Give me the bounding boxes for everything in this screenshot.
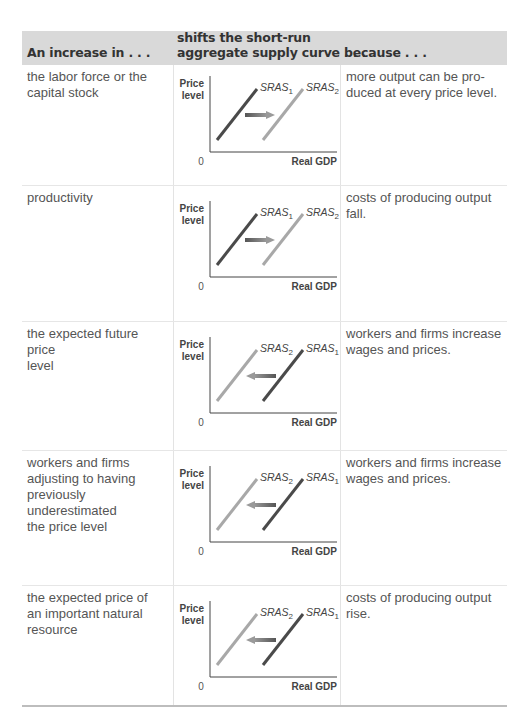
svg-text:Real GDP: Real GDP (291, 281, 337, 292)
svg-text:Price: Price (180, 339, 205, 350)
svg-text:level: level (182, 615, 204, 626)
svg-text:level: level (182, 215, 204, 226)
header-reason: because . . . (344, 45, 427, 60)
table-row: the labor force or thecapital stock Pric… (22, 65, 507, 185)
header-shift-line1: shifts the short-run (177, 30, 366, 45)
svg-text:level: level (182, 480, 204, 491)
sras-shift-chart: Pricelevel0Real GDPSRAS1SRAS2 (174, 69, 340, 184)
svg-text:0: 0 (198, 156, 204, 167)
column-divider (340, 451, 341, 585)
table-body: the labor force or thecapital stock Pric… (22, 65, 507, 707)
table-header: An increase in . . . shifts the short-ru… (22, 31, 507, 65)
svg-text:SRAS2: SRAS2 (260, 471, 294, 486)
svg-text:0: 0 (198, 681, 204, 692)
cause-cell: the labor force or thecapital stock (27, 69, 169, 101)
svg-text:level: level (182, 90, 204, 101)
svg-text:Real GDP: Real GDP (291, 156, 337, 167)
table-row: the expected future pricelevel Priceleve… (22, 321, 507, 450)
svg-text:SRAS2: SRAS2 (260, 606, 294, 621)
svg-text:Price: Price (180, 603, 205, 614)
header-shift: shifts the short-run aggregate supply cu… (177, 30, 366, 60)
sras-shift-chart: Pricelevel0Real GDPSRAS2SRAS1 (174, 330, 340, 445)
table-row: productivity Pricelevel0Real GDPSRAS1SRA… (22, 185, 507, 321)
table-row: workers and firmsadjusting to havingprev… (22, 450, 507, 585)
column-divider (340, 322, 341, 450)
sras-shift-table: An increase in . . . shifts the short-ru… (22, 31, 507, 707)
cause-cell: the expected price ofan important natura… (27, 590, 169, 638)
cause-cell: workers and firmsadjusting to havingprev… (27, 455, 169, 535)
reason-cell: workers and firms increasewages and pric… (346, 326, 506, 358)
reason-cell: costs of producing outputfall. (346, 190, 506, 222)
svg-text:SRAS1: SRAS1 (260, 81, 294, 96)
reason-cell: workers and firms increasewages and pric… (346, 455, 506, 487)
svg-text:SRAS1: SRAS1 (306, 471, 340, 486)
sras-shift-chart: Pricelevel0Real GDPSRAS1SRAS2 (174, 194, 340, 309)
svg-text:SRAS2: SRAS2 (306, 81, 340, 96)
svg-text:0: 0 (198, 281, 204, 292)
cause-cell: productivity (27, 190, 169, 206)
svg-text:SRAS1: SRAS1 (260, 206, 294, 221)
sras-shift-chart: Pricelevel0Real GDPSRAS2SRAS1 (174, 459, 340, 574)
svg-text:SRAS2: SRAS2 (260, 342, 294, 357)
reason-cell: costs of producing outputrise. (346, 590, 506, 622)
column-divider (340, 586, 341, 705)
svg-text:Real GDP: Real GDP (291, 681, 337, 692)
svg-text:Price: Price (180, 468, 205, 479)
header-cause: An increase in . . . (27, 45, 150, 60)
svg-text:Price: Price (180, 203, 205, 214)
svg-text:SRAS2: SRAS2 (306, 206, 340, 221)
header-shift-line2: aggregate supply curve . . . (177, 45, 366, 60)
cause-cell: the expected future pricelevel (27, 326, 169, 374)
svg-text:SRAS1: SRAS1 (306, 606, 340, 621)
column-divider (340, 186, 341, 321)
reason-cell: more output can be pro-duced at every pr… (346, 69, 506, 101)
svg-text:0: 0 (198, 546, 204, 557)
column-divider (340, 65, 341, 185)
svg-text:SRAS1: SRAS1 (306, 342, 340, 357)
svg-text:Real GDP: Real GDP (291, 417, 337, 428)
svg-text:level: level (182, 351, 204, 362)
svg-text:Price: Price (180, 78, 205, 89)
sras-shift-chart: Pricelevel0Real GDPSRAS2SRAS1 (174, 594, 340, 709)
svg-text:0: 0 (198, 417, 204, 428)
table-row: the expected price ofan important natura… (22, 585, 507, 707)
svg-text:Real GDP: Real GDP (291, 546, 337, 557)
